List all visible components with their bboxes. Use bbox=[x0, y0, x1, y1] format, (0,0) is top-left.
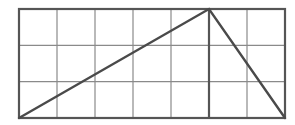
triangle bbox=[19, 9, 285, 118]
grid-lines bbox=[19, 9, 285, 118]
grid-triangle-diagram bbox=[0, 0, 295, 125]
grid-border bbox=[19, 9, 285, 118]
